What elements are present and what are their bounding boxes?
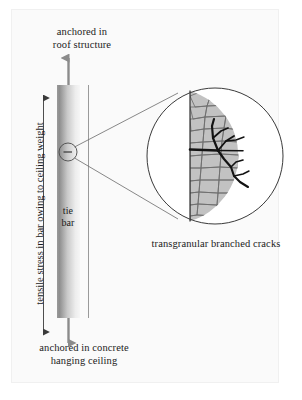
figure-tie-bar-cracks: anchored in roof structure anchored in c… xyxy=(0,0,302,400)
tie-bar-label: tie bar xyxy=(48,205,88,229)
diagram-canvas xyxy=(0,0,302,400)
tie-bar-group xyxy=(57,85,89,318)
crack-caption-label: transgranular branched cracks xyxy=(140,238,292,251)
bottom-anchor-label: anchored in concrete hanging ceiling xyxy=(14,342,154,367)
tie-bar-body xyxy=(57,85,80,318)
magnified-view-group xyxy=(147,86,286,228)
top-anchor-label: anchored in roof structure xyxy=(22,26,142,51)
tensile-stress-label: tensile stress in bar owing to ceiling w… xyxy=(34,89,45,339)
